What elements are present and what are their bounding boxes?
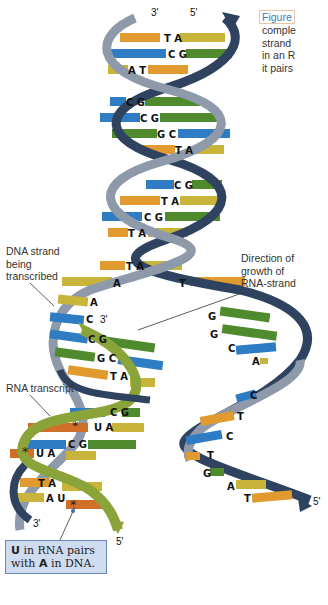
svg-text:G: G <box>210 329 218 340</box>
figure-caption: Figure comple strand in an R it pairs <box>262 10 328 74</box>
svg-text:T A: T A <box>38 478 56 489</box>
svg-text:T A: T A <box>175 145 193 156</box>
svg-text:T: T <box>179 278 186 289</box>
svg-text:A: A <box>113 278 121 289</box>
svg-text:T: T <box>244 493 251 504</box>
svg-text:T A: T A <box>161 196 179 207</box>
note-text-3: in DNA. <box>47 557 94 570</box>
pointer-dot <box>71 509 75 513</box>
svg-text:A: A <box>227 481 235 492</box>
svg-text:C: C <box>250 390 257 401</box>
direction-label-line-2: growth of <box>241 265 284 277</box>
svg-text:C G: C G <box>110 407 129 418</box>
svg-text:T: T <box>207 450 214 461</box>
svg-text:C G: C G <box>126 97 145 108</box>
svg-text:A: A <box>90 297 98 308</box>
svg-text:5': 5' <box>313 496 321 507</box>
caption-line-3: in an R <box>262 49 295 61</box>
svg-text:T A: T A <box>110 371 128 382</box>
rna-dna-hybrid: * * * <box>10 322 163 534</box>
svg-text:T A: T A <box>128 228 146 239</box>
svg-text:3': 3' <box>33 518 41 529</box>
dna-strand-label: DNA strand being transcribed <box>6 245 60 283</box>
svg-text:C G: C G <box>68 439 87 450</box>
dna-transcription-figure: * * * T A C G A T C G C G G C T A C G T … <box>0 0 328 605</box>
svg-text:*: * <box>22 444 29 459</box>
note-text-2: with <box>11 557 39 570</box>
svg-text:A: A <box>252 356 260 367</box>
figure-label[interactable]: Figure <box>259 10 295 24</box>
uracil-pairing-note: U in RNA pairs with A in DNA. <box>5 540 107 574</box>
dna-strand-label-line-3: transcribed <box>6 270 58 282</box>
direction-label: Direction of growth of RNA-strand <box>241 252 296 290</box>
svg-text:3': 3' <box>151 7 159 18</box>
note-u: U <box>11 544 20 557</box>
svg-text:3': 3' <box>100 314 108 325</box>
svg-text:C G: C G <box>168 49 187 60</box>
svg-text:G: G <box>203 468 211 479</box>
direction-label-line-1: Direction of <box>241 252 294 264</box>
dna-strand-label-line-1: DNA strand <box>6 245 60 257</box>
svg-text:T: T <box>237 411 244 422</box>
svg-text:C: C <box>228 343 235 354</box>
svg-text:U A: U A <box>36 448 56 459</box>
caption-line-4: it pairs <box>262 62 293 74</box>
svg-text:5': 5' <box>116 536 124 547</box>
direction-label-line-3: RNA-strand <box>241 277 296 289</box>
svg-text:G C: G C <box>157 129 176 140</box>
svg-text:C G: C G <box>174 180 193 191</box>
svg-text:5': 5' <box>190 7 198 18</box>
svg-text:A T: A T <box>128 65 146 76</box>
svg-text:U A: U A <box>94 422 114 433</box>
svg-text:T A: T A <box>164 33 182 44</box>
svg-text:C G: C G <box>140 113 159 124</box>
rna-transcript-label: RNA transcript <box>6 382 74 395</box>
svg-text:*: * <box>72 418 79 433</box>
svg-text:C G: C G <box>144 212 163 223</box>
svg-text:G C: G C <box>97 353 116 364</box>
svg-text:C G: C G <box>88 334 107 345</box>
dna-strand-label-line-2: being <box>6 258 32 270</box>
caption-line-2: strand <box>262 37 291 49</box>
note-text-1: in RNA pairs <box>20 544 95 557</box>
svg-text:C: C <box>86 314 93 325</box>
svg-text:G: G <box>208 311 216 322</box>
svg-text:T A: T A <box>126 261 144 272</box>
svg-text:C: C <box>226 431 233 442</box>
svg-text:A U: A U <box>46 493 65 504</box>
caption-line-1: comple <box>262 24 296 36</box>
